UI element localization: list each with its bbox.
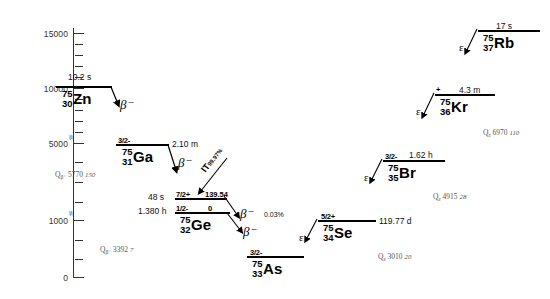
zn-symbol: 75 30 Zn bbox=[62, 89, 91, 108]
q-value-beta-ga-uncertainty: 7 bbox=[130, 246, 133, 253]
ge-isomer-halflife: 48 s bbox=[148, 192, 164, 202]
se-element-symbol: Se bbox=[334, 225, 352, 240]
zn-atomic-number: 30 bbox=[62, 99, 73, 109]
ga-symbol: 75 31 Ga bbox=[122, 147, 153, 166]
se-symbol: 75 34 Se bbox=[323, 223, 352, 242]
kr-atomic-number: 36 bbox=[440, 107, 451, 117]
ge-ground-energy: 0 bbox=[208, 204, 212, 213]
q-value-beta-zn: Qβ⁻ 5770 150 bbox=[55, 170, 95, 180]
kr-symbol: 75 36 Kr bbox=[440, 97, 468, 116]
rb-decay-label: ε bbox=[459, 41, 464, 53]
ge-element-symbol: Ge bbox=[191, 217, 211, 232]
q-value-beta-zn-value: 5770 bbox=[68, 170, 83, 179]
q-value-eps-kr: Qε 6970 110 bbox=[483, 128, 519, 138]
br-halflife: 1.62 h bbox=[409, 150, 433, 160]
q-value-eps-se-uncertainty: 20 bbox=[404, 253, 411, 260]
q-value-eps-kr-subscript: ε bbox=[488, 132, 490, 138]
ge-mass-charge: 75 32 bbox=[180, 215, 191, 234]
kr-element-symbol: Kr bbox=[451, 99, 468, 114]
zn-element-symbol: Zn bbox=[73, 91, 91, 106]
kr-spin-parity: + bbox=[436, 85, 440, 94]
q-value-eps-se-subscript: ε bbox=[383, 256, 385, 262]
kr-mass-charge: 75 36 bbox=[440, 97, 451, 116]
q-value-eps-kr-uncertainty: 110 bbox=[509, 129, 519, 136]
br-atomic-number: 35 bbox=[388, 173, 399, 183]
q-value-eps-br-uncertainty: 28 bbox=[459, 193, 466, 200]
q-value-beta-zn-uncertainty: 150 bbox=[85, 171, 95, 178]
q-value-eps-se-value: 3010 bbox=[388, 252, 403, 261]
br-symbol: 75 35 Br bbox=[388, 163, 416, 182]
zn-decay-label: β⁻ bbox=[120, 97, 133, 113]
q-value-eps-br-value: 4915 bbox=[443, 192, 458, 201]
q-value-eps-br: Qε 4915 28 bbox=[433, 192, 466, 202]
q-value-beta-ga: Qβ⁻ 3392 7 bbox=[100, 245, 133, 255]
br-element-symbol: Br bbox=[399, 165, 416, 180]
arrow-ge-ground-to-as bbox=[227, 213, 241, 231]
arrow-kr-to-br bbox=[423, 93, 434, 116]
se-halflife: 119.77 d bbox=[379, 216, 411, 226]
kr-decay-label: ε bbox=[416, 105, 421, 117]
rb-element-symbol: Rb bbox=[494, 35, 514, 50]
ge-atomic-number: 32 bbox=[180, 225, 191, 235]
arrow-zn-to-ga bbox=[111, 87, 118, 104]
decay-scheme-diagram: ≈ ≈ 15000 10000 5000 1000 0 10.2 s bbox=[0, 0, 550, 299]
rb-symbol: 75 37 Rb bbox=[483, 33, 514, 52]
arrow-br-to-se bbox=[371, 159, 382, 181]
zn-halflife: 10.2 s bbox=[68, 72, 91, 82]
as-element-symbol: As bbox=[263, 261, 282, 276]
ge-isomer-energy: 139.54 bbox=[205, 190, 228, 199]
q-value-beta-ga-subscript: β⁻ bbox=[105, 249, 111, 255]
as-atomic-number: 33 bbox=[252, 269, 263, 279]
ga-atomic-number: 31 bbox=[122, 157, 133, 167]
rb-atomic-number: 37 bbox=[483, 43, 494, 53]
decay-arrows bbox=[0, 0, 550, 299]
ge-isomer-beta-branch: 0.03% bbox=[264, 211, 284, 218]
rb-mass-charge: 75 37 bbox=[483, 33, 494, 52]
ga-mass-charge: 75 31 bbox=[122, 147, 133, 166]
ga-decay-label: β⁻ bbox=[178, 155, 191, 171]
se-atomic-number: 34 bbox=[323, 233, 334, 243]
se-mass-charge: 75 34 bbox=[323, 223, 334, 242]
q-value-eps-kr-value: 6970 bbox=[493, 128, 508, 137]
br-mass-charge: 75 35 bbox=[388, 163, 399, 182]
se-decay-label: ε bbox=[299, 231, 304, 243]
as-symbol: 75 33 As bbox=[252, 259, 282, 278]
ga-halflife: 2.10 m bbox=[172, 139, 198, 149]
ge-isomer-beta-label: β⁻ bbox=[240, 206, 253, 222]
ge-symbol: 75 32 Ge bbox=[180, 215, 211, 234]
zn-mass-charge: 75 30 bbox=[62, 89, 73, 108]
q-value-eps-se: Qε 3010 20 bbox=[378, 252, 411, 262]
as-mass-charge: 75 33 bbox=[252, 259, 263, 278]
q-value-beta-ga-value: 3392 bbox=[113, 245, 128, 254]
q-value-beta-zn-subscript: β⁻ bbox=[60, 174, 66, 180]
br-decay-label: ε bbox=[364, 171, 369, 183]
arrow-rb-to-kr bbox=[466, 29, 477, 52]
arrow-se-to-as bbox=[306, 219, 317, 240]
ga-element-symbol: Ga bbox=[133, 149, 153, 164]
ge-ground-halflife: 1.380 h bbox=[138, 206, 166, 216]
q-value-eps-br-subscript: ε bbox=[438, 196, 440, 202]
ge-ground-beta-label: β⁻ bbox=[243, 224, 256, 240]
